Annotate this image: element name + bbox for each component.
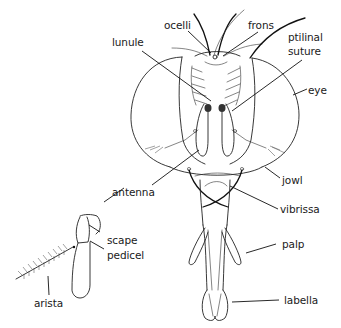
- label-antenna: antenna: [112, 186, 155, 198]
- leader-lines: [48, 31, 307, 302]
- label-pedicel: pedicel: [107, 249, 144, 261]
- face-antennae: [145, 104, 285, 156]
- label-eye: eye: [308, 84, 327, 96]
- label-palp: palp: [282, 238, 304, 250]
- label-ptilinal: ptilinal: [288, 31, 323, 43]
- head-bristles: [172, 10, 305, 58]
- frons: [191, 52, 241, 107]
- antenna-detail: [16, 215, 100, 299]
- label-ocelli: ocelli: [164, 19, 191, 31]
- label-vibrissa: vibrissa: [280, 203, 320, 215]
- label-jowl: jowl: [282, 174, 302, 186]
- vibrissae: [187, 167, 243, 207]
- label-scape: scape: [107, 234, 137, 246]
- head-capsule: [131, 57, 299, 176]
- label-suture: suture: [288, 45, 321, 57]
- label-lunule: lunule: [112, 36, 144, 48]
- label-labella: labella: [284, 294, 318, 306]
- label-arista: arista: [34, 297, 63, 309]
- label-frons: frons: [248, 19, 274, 31]
